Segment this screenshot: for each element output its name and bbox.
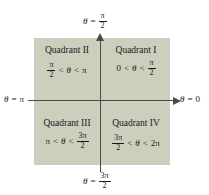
axis-label-right-equals: = xyxy=(186,95,193,104)
axis-label-bottom-fraction: 3π 2 xyxy=(99,172,111,190)
axis-label-bottom: θ = 3π 2 xyxy=(83,172,111,190)
quadrant-3-theta: θ xyxy=(61,136,65,146)
quadrant-1-op-right: < xyxy=(138,63,145,73)
quadrant-3-block: Quadrant III π < θ < 3π 2 xyxy=(33,118,101,150)
quadrant-4-op-right: < xyxy=(142,138,149,148)
axis-label-top-fraction: π 2 xyxy=(99,12,107,30)
axis-label-right: θ = 0 xyxy=(180,95,200,104)
quadrant-3-upper-denominator: 2 xyxy=(79,142,87,151)
quadrant-4-block: Quadrant IV 3π 2 < θ < 2π xyxy=(102,118,170,152)
axis-label-top-equals: = xyxy=(89,17,96,26)
axis-label-bottom-denominator: 2 xyxy=(101,182,109,191)
axis-label-top: θ = π 2 xyxy=(83,12,107,30)
quadrant-2-theta: θ xyxy=(67,65,71,75)
quadrant-2-op-right: < xyxy=(73,65,80,75)
quadrant-3-upper-fraction: 3π 2 xyxy=(77,132,89,150)
quadrant-4-name: Quadrant IV xyxy=(102,118,170,128)
quadrant-3-name: Quadrant III xyxy=(33,118,101,128)
quadrant-4-lower-denominator: 2 xyxy=(114,144,122,153)
axis-label-left: θ = π xyxy=(4,95,24,104)
quadrant-4-theta: θ xyxy=(135,138,139,148)
quadrant-2-block: Quadrant II π 2 < θ < π xyxy=(33,45,101,79)
quadrant-4-upper-bound: 2π xyxy=(151,138,160,148)
axis-label-left-value: π xyxy=(20,95,25,104)
axis-label-bottom-theta: θ xyxy=(83,177,87,186)
quadrant-3-op-left: < xyxy=(52,136,59,146)
quadrant-2-upper-bound: π xyxy=(82,65,87,75)
axis-label-right-theta: θ xyxy=(180,95,184,104)
quadrant-2-lower-denominator: 2 xyxy=(47,71,55,80)
quadrant-2-lower-fraction: π 2 xyxy=(47,61,55,79)
quadrant-1-block: Quadrant I 0 < θ < π 2 xyxy=(102,45,170,77)
quadrant-4-range: 3π 2 < θ < 2π xyxy=(102,132,170,152)
quadrant-1-upper-denominator: 2 xyxy=(148,69,156,78)
quadrant-1-upper-fraction: π 2 xyxy=(148,59,156,77)
polar-quadrant-diagram: θ = π 2 θ = 3π 2 θ = π θ = xyxy=(0,0,209,195)
axis-label-top-theta: θ xyxy=(83,17,87,26)
quadrant-1-name: Quadrant I xyxy=(102,45,170,55)
quadrant-2-name: Quadrant II xyxy=(33,45,101,55)
vertical-axis-arrowhead-icon xyxy=(96,33,104,41)
quadrant-1-op-left: < xyxy=(123,63,130,73)
horizontal-axis xyxy=(28,100,175,101)
quadrant-4-op-left: < xyxy=(126,138,133,148)
quadrant-1-lower-bound: 0 xyxy=(116,63,121,73)
quadrant-1-theta: θ xyxy=(132,63,136,73)
quadrant-2-op-left: < xyxy=(57,65,64,75)
axis-label-bottom-equals: = xyxy=(89,177,96,186)
quadrant-1-range: 0 < θ < π 2 xyxy=(102,59,170,77)
axis-label-right-value: 0 xyxy=(196,95,201,104)
axis-label-left-theta: θ xyxy=(4,95,8,104)
quadrant-4-lower-fraction: 3π 2 xyxy=(112,134,124,152)
quadrant-3-range: π < θ < 3π 2 xyxy=(33,132,101,150)
axis-label-top-denominator: 2 xyxy=(99,22,107,31)
quadrant-3-op-right: < xyxy=(67,136,74,146)
quadrant-2-range: π 2 < θ < π xyxy=(33,59,101,79)
quadrant-3-lower-bound: π xyxy=(45,136,50,146)
axis-label-left-equals: = xyxy=(10,95,17,104)
